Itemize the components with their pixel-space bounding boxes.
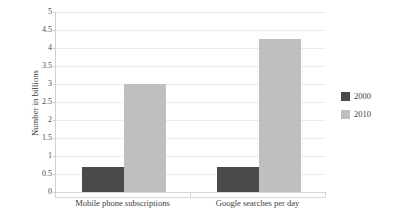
bar-chart: Number in billions 54.543.532.521.510.50… (0, 0, 395, 224)
legend: 20002010 (341, 92, 395, 128)
legend-label: 2000 (354, 92, 371, 101)
y-axis-tick-label: 4.5 (28, 26, 52, 34)
y-axis-title-container: Number in billions (0, 0, 30, 224)
y-axis-tick-mark (53, 30, 56, 31)
legend-item[interactable]: 2000 (341, 92, 395, 101)
y-axis-tick-label: 3 (28, 80, 52, 88)
x-axis-category-separator (325, 192, 326, 197)
bar-2000-1 (82, 167, 124, 192)
legend-swatch-icon (341, 110, 350, 119)
y-axis-tick-label: 2.5 (28, 98, 52, 106)
plot-area (55, 12, 325, 192)
bar-2000-2 (217, 167, 259, 192)
y-axis-tick-label: 0.5 (28, 170, 52, 178)
gridline (56, 30, 325, 31)
y-axis-tick-label: 5 (28, 8, 52, 16)
x-axis-category-label: Mobile phone subscriptions (55, 198, 190, 208)
y-axis-tick-label: 1.5 (28, 134, 52, 142)
y-axis-tick-mark (53, 102, 56, 103)
bar-2010-1 (124, 84, 166, 192)
y-axis-tick-mark (53, 66, 56, 67)
legend-swatch-icon (341, 92, 350, 101)
y-axis-tick-mark (53, 138, 56, 139)
bar-2010-2 (259, 39, 301, 192)
y-axis-tick-label: 4 (28, 44, 52, 52)
y-axis-tick-mark (53, 12, 56, 13)
y-axis-tick-mark (53, 84, 56, 85)
legend-label: 2010 (354, 110, 371, 119)
x-axis-category-label: Google searches per day (190, 198, 325, 208)
y-axis-tick-mark (53, 120, 56, 121)
legend-item[interactable]: 2010 (341, 110, 395, 119)
gridline (56, 12, 325, 13)
y-axis-tick-label: 2 (28, 116, 52, 124)
x-axis-category-separator (55, 192, 56, 197)
y-axis-tick-labels: 54.543.532.521.510.50 (28, 0, 52, 224)
y-axis-tick-label: 1 (28, 152, 52, 160)
y-axis-tick-label: 0 (28, 188, 52, 196)
x-axis-line (55, 197, 325, 198)
y-axis-tick-mark (53, 48, 56, 49)
y-axis-tick-mark (53, 156, 56, 157)
y-axis-tick-label: 3.5 (28, 62, 52, 70)
y-axis-tick-mark (53, 174, 56, 175)
